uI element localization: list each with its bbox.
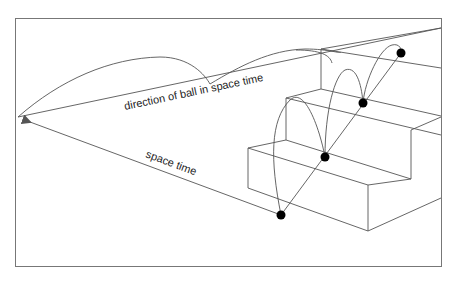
ball-position-2 [321, 153, 330, 162]
spacetime-label: space time [144, 148, 198, 178]
diagram-frame [16, 19, 442, 267]
bounce-arc-1 [274, 97, 325, 215]
bounce-arc-3 [363, 45, 401, 103]
ball-position-1 [277, 211, 286, 220]
spacetime-arrow [30, 122, 281, 215]
bounce-arc-2 [325, 69, 363, 157]
direction-label: direction of ball in space time [123, 71, 264, 112]
ball-position-4 [397, 49, 406, 58]
staircase [18, 28, 441, 231]
ball-path-line [281, 53, 401, 215]
ball-position-3 [359, 99, 368, 108]
ball-bouncing-stairs-diagram: direction of ball in space time space ti… [0, 0, 452, 281]
